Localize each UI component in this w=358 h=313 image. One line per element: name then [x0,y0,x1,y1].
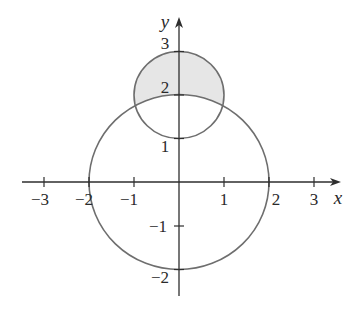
x-tick-label-neg2: −2 [75,190,93,209]
x-tick-label-neg1: −1 [120,190,138,209]
x-tick-label-pos3: 3 [310,190,319,209]
x-tick-label-neg3: −3 [31,190,49,209]
x-axis-label: x [333,187,343,208]
y-tick-label-pos2: 2 [161,78,170,97]
circles-diagram: −3 −2 −1 1 2 3 3 2 1 −1 −2 x y [0,0,358,313]
y-tick-label-neg2: −2 [151,268,169,287]
x-tick-label-pos1: 1 [220,190,229,209]
y-tick-label-neg1: −1 [149,217,167,236]
y-tick-label-pos3: 3 [161,34,170,53]
y-axis-label: y [159,11,170,32]
y-tick-label-pos1: 1 [161,137,170,156]
x-tick-label-pos2: 2 [272,190,281,209]
